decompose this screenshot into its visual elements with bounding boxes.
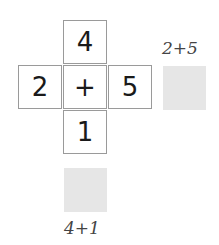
cell-center-operator: +	[63, 65, 107, 109]
cell-right: 5	[108, 65, 152, 109]
horizontal-sum-label: 2+5	[162, 38, 198, 58]
vertical-answer-box[interactable]	[64, 168, 107, 212]
cell-bottom: 1	[63, 110, 107, 154]
cell-top: 4	[63, 20, 107, 64]
vertical-sum-label: 4+1	[64, 218, 100, 238]
horizontal-answer-box[interactable]	[163, 66, 206, 110]
cell-left: 2	[18, 65, 62, 109]
